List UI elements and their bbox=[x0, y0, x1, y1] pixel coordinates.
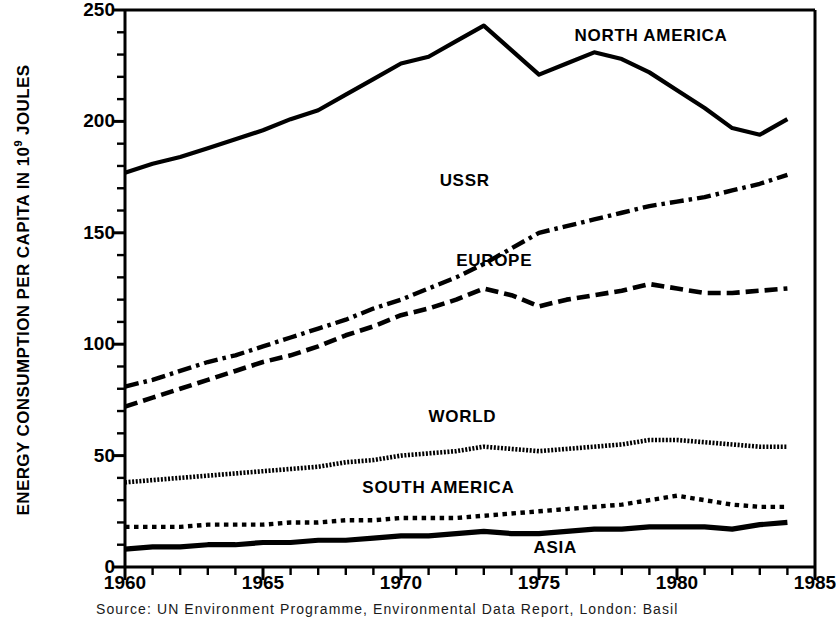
series-line-south-america bbox=[125, 496, 787, 527]
series-line-world bbox=[125, 440, 787, 482]
series-label-europe: EUROPE bbox=[456, 251, 532, 271]
series-label-asia: ASIA bbox=[533, 538, 576, 558]
series-label-ussr: USSR bbox=[440, 171, 490, 191]
series-line-north-america bbox=[125, 26, 787, 173]
series-label-south-america: SOUTH AMERICA bbox=[362, 478, 514, 498]
series-line-ussr bbox=[125, 175, 787, 387]
source-note: Source: UN Environment Programme, Enviro… bbox=[96, 601, 833, 619]
series-layer bbox=[125, 26, 787, 550]
series-label-north-america: NORTH AMERICA bbox=[575, 26, 728, 46]
series-line-europe bbox=[125, 284, 787, 407]
series-label-world: WORLD bbox=[429, 407, 497, 427]
